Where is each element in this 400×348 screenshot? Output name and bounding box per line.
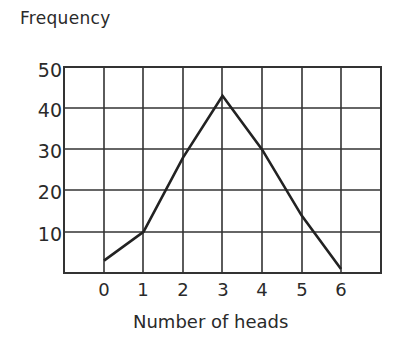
x-tick-0: 0 — [94, 279, 114, 300]
x-tick-2: 2 — [173, 279, 193, 300]
x-axis-title: Number of heads — [133, 311, 288, 332]
x-tick-1: 1 — [133, 279, 153, 300]
x-tick-3: 3 — [213, 279, 233, 300]
x-tick-4: 4 — [252, 279, 272, 300]
x-tick-5: 5 — [292, 279, 312, 300]
x-tick-6: 6 — [331, 279, 351, 300]
